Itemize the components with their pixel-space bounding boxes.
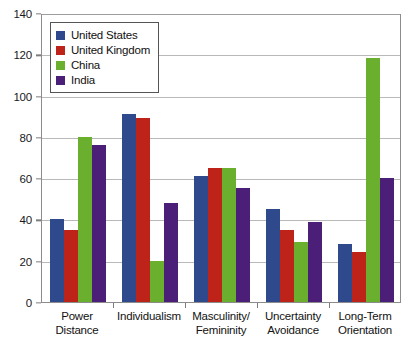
bar xyxy=(150,261,164,302)
y-tick-label: 0 xyxy=(26,297,32,309)
legend-item: United Kingdom xyxy=(56,43,150,57)
y-tick-label: 60 xyxy=(20,173,32,185)
bar xyxy=(194,176,208,302)
bar-group xyxy=(338,14,394,302)
x-axis-category-label: PowerDistance xyxy=(41,309,113,337)
y-tick-label: 140 xyxy=(13,8,32,20)
bar xyxy=(280,230,294,302)
y-tick-label: 100 xyxy=(13,91,32,103)
legend-label: United Kingdom xyxy=(71,44,150,56)
legend-label: United States xyxy=(71,29,137,41)
bar xyxy=(338,244,352,302)
bar xyxy=(352,252,366,302)
legend-label: India xyxy=(71,74,95,86)
legend-swatch-icon xyxy=(56,76,65,85)
x-axis-category-label: Long-TermOrientation xyxy=(329,309,401,337)
x-axis-category-line: Long-Term xyxy=(329,309,401,323)
x-axis-category-line: Masculinity/ xyxy=(185,309,257,323)
x-axis-category-label: Individualism xyxy=(113,309,185,323)
legend-swatch-icon xyxy=(56,46,65,55)
legend: United StatesUnited KingdomChinaIndia xyxy=(50,22,159,93)
x-axis-category-label: UncertaintyAvoidance xyxy=(257,309,329,337)
bar xyxy=(78,137,92,302)
x-axis-category-label: Masculinity/Femininity xyxy=(185,309,257,337)
bar xyxy=(266,209,280,302)
bar-group xyxy=(194,14,250,302)
y-tick-label: 80 xyxy=(20,132,32,144)
bar xyxy=(294,242,308,302)
y-tick-label: 20 xyxy=(20,256,32,268)
bar xyxy=(50,219,64,302)
x-axis-labels: PowerDistanceIndividualismMasculinity/Fe… xyxy=(41,309,401,352)
legend-item: India xyxy=(56,73,150,87)
x-tick-mark xyxy=(329,303,330,308)
bar xyxy=(122,114,136,302)
x-axis-category-line: Power xyxy=(41,309,113,323)
x-axis-category-line: Individualism xyxy=(113,309,185,323)
x-tick-mark xyxy=(257,303,258,308)
bar xyxy=(308,222,322,303)
bar xyxy=(92,145,106,302)
legend-swatch-icon xyxy=(56,61,65,70)
x-tick-mark xyxy=(185,303,186,308)
bar xyxy=(380,178,394,302)
y-axis: 020406080100120140 xyxy=(0,0,41,352)
x-axis-category-line: Uncertainty xyxy=(257,309,329,323)
legend-swatch-icon xyxy=(56,31,65,40)
legend-item: United States xyxy=(56,28,150,42)
bar xyxy=(208,168,222,302)
x-axis-category-line: Orientation xyxy=(329,323,401,337)
y-tick-label: 40 xyxy=(20,214,32,226)
bar xyxy=(164,203,178,302)
bar xyxy=(236,188,250,302)
bar xyxy=(222,168,236,302)
bar-group xyxy=(266,14,322,302)
x-axis-category-line: Femininity xyxy=(185,323,257,337)
y-tick-label: 120 xyxy=(13,49,32,61)
legend-label: China xyxy=(71,59,100,71)
bar xyxy=(136,118,150,302)
x-axis-category-line: Distance xyxy=(41,323,113,337)
x-axis-category-line: Avoidance xyxy=(257,323,329,337)
legend-item: China xyxy=(56,58,150,72)
bar-chart: 020406080100120140 PowerDistanceIndividu… xyxy=(0,0,417,352)
bar xyxy=(64,230,78,302)
bar xyxy=(366,58,380,302)
x-tick-mark xyxy=(113,303,114,308)
